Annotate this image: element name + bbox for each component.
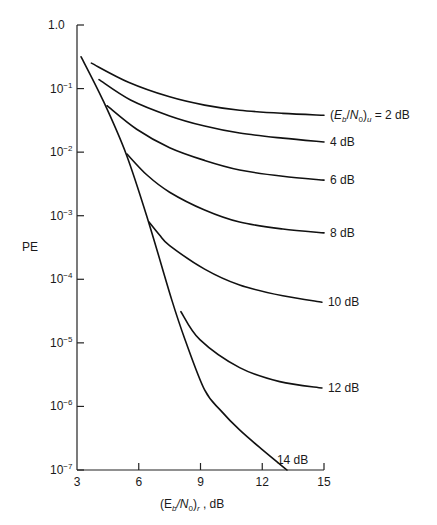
curve-14-db [81, 57, 287, 470]
x-axis-title: (Eb/N0)r , dB [160, 497, 224, 513]
y-tick-label: 10−6 [50, 398, 73, 413]
x-tick-label: 6 [135, 475, 142, 489]
curve-12-db [181, 312, 322, 388]
chart-canvas: 1.010−110−210−310−410−510−610−73691215 1… [0, 0, 437, 525]
x-tick-label: 12 [256, 475, 270, 489]
axes: 1.010−110−210−310−410−510−610−73691215 [48, 18, 331, 489]
curve-2-db [91, 63, 324, 115]
series-labels: 14 dB(Eb/N0)u = 2 dB4 dB6 dB8 dB10 dB12 … [277, 108, 410, 467]
y-tick-label: 10−5 [50, 335, 73, 350]
y-tick-label: 10−7 [50, 462, 73, 477]
x-tick-label: 3 [74, 475, 81, 489]
series-label-14-db: 14 dB [277, 453, 308, 467]
curve-6-db [107, 106, 324, 180]
y-tick-label: 10−2 [50, 144, 73, 159]
y-tick-label: 1.0 [48, 18, 65, 32]
x-tick-label: 15 [317, 475, 331, 489]
series-label-2-db: (Eb/N0)u = 2 dB [330, 108, 410, 124]
x-tick-label: 9 [197, 475, 204, 489]
y-axis-title: PE [22, 240, 38, 254]
y-tick-label: 10−4 [50, 271, 73, 286]
series-label-8-db: 8 dB [330, 226, 355, 240]
series-label-12-db: 12 dB [328, 381, 359, 395]
y-tick-label: 10−1 [50, 81, 73, 96]
series-label-6-db: 6 dB [330, 173, 355, 187]
series-label-10-db: 10 dB [328, 295, 359, 309]
pe-vs-ebno-chart: 1.010−110−210−310−410−510−610−73691215 1… [0, 0, 437, 525]
curve-10-db [149, 222, 322, 302]
curves [81, 57, 324, 470]
y-tick-label: 10−3 [50, 208, 73, 223]
series-label-4-db: 4 dB [330, 135, 355, 149]
curve-4-db [99, 80, 324, 142]
